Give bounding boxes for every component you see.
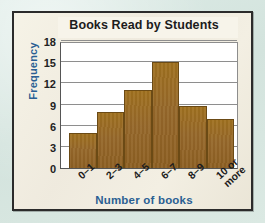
bar-series	[61, 43, 237, 168]
bar	[152, 62, 180, 168]
y-axis-tick-label: 0	[34, 164, 56, 175]
plot-area	[60, 42, 238, 169]
gridline	[61, 40, 237, 41]
y-axis-tick-label: 15	[34, 58, 56, 69]
bar	[97, 112, 125, 168]
bar	[179, 106, 207, 168]
chart-title: Books Read by Students	[44, 18, 244, 32]
y-axis-tick-label: 12	[34, 79, 56, 90]
y-axis-tick-label: 3	[34, 143, 56, 154]
chart-figure-card: Books Read by Students Frequency 0369121…	[12, 11, 253, 211]
bar	[124, 90, 152, 168]
y-axis-tick-label: 6	[34, 122, 56, 133]
x-axis-title: Number of books	[44, 194, 244, 206]
bar	[69, 133, 97, 168]
y-axis-tick-label: 18	[34, 37, 56, 48]
y-axis-tick-label: 9	[34, 101, 56, 112]
